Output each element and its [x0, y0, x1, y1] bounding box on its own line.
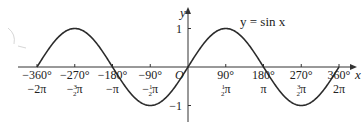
axis-labels: −360°−2π−270°−32π−180°−π−90°−12π90°12π18… — [22, 5, 361, 113]
series-label: y = sin x — [240, 14, 286, 29]
x-tick-label-rad: −2π — [28, 82, 47, 96]
x-tick-label-rad: 32π — [296, 82, 306, 98]
x-tick-label-rad: −12π — [142, 82, 158, 98]
sine-chart: −360°−2π−270°−32π−180°−π−90°−12π90°12π18… — [0, 0, 363, 131]
x-tick-label-deg: 270° — [290, 68, 313, 82]
x-tick-label-deg: 180° — [252, 68, 275, 82]
x-tick-label-rad: 2π — [333, 82, 345, 96]
x-tick-label-deg: 360° — [328, 68, 351, 82]
x-tick-label-deg: −360° — [22, 68, 52, 82]
x-tick-label-rad: −32π — [67, 82, 83, 98]
y-axis-title: y — [178, 5, 186, 20]
y-tick-label: 1 — [176, 22, 182, 36]
x-tick-label-rad: π — [260, 82, 266, 96]
x-tick-label-deg: 90° — [217, 68, 234, 82]
x-tick-label-deg: −270° — [60, 68, 90, 82]
origin-label: O — [175, 68, 184, 82]
scan-artifact — [8, 28, 26, 48]
x-axis-title: x — [354, 67, 361, 82]
y-axis-arrow-icon — [185, 7, 191, 14]
x-tick-label-deg: −180° — [98, 68, 128, 82]
x-tick-label-rad: −π — [106, 82, 119, 96]
y-tick-label: −1 — [169, 99, 182, 113]
x-tick-label-rad: 12π — [221, 82, 231, 98]
x-tick-label-deg: −90° — [138, 68, 162, 82]
